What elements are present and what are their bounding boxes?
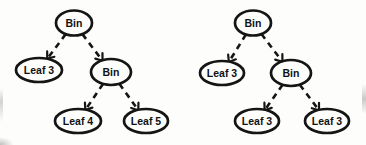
tree-node-right-left-grandchild: Leaf 3 xyxy=(235,109,279,133)
edge-bin-to-left-leaf3 xyxy=(265,85,283,110)
node-label: Leaf 3 xyxy=(24,64,55,76)
node-label: Leaf 3 xyxy=(207,67,238,79)
edge-bin-to-leaf5 xyxy=(119,84,138,110)
tree-node-right-child: Bin xyxy=(271,60,311,86)
node-label: Leaf 4 xyxy=(63,115,94,127)
node-label: Bin xyxy=(66,17,83,29)
left-tree: Bin Leaf 3 Bin Leaf 4 Leaf 5 xyxy=(16,11,168,134)
node-label: Leaf 3 xyxy=(312,115,343,127)
right-tree: Bin Leaf 3 Bin Leaf 3 Leaf 3 xyxy=(200,11,349,134)
edge-root-to-right-child xyxy=(82,34,102,60)
tree-node-left-child: Leaf 3 xyxy=(16,58,62,82)
tree-node-left-child: Leaf 3 xyxy=(200,61,244,85)
node-label: Leaf 5 xyxy=(131,115,162,127)
edge-root-to-left-child xyxy=(229,35,246,62)
edge-root-to-right-child xyxy=(261,34,282,61)
tree-node-right-right-grandchild: Leaf 3 xyxy=(305,109,349,133)
tree-node-root: Bin xyxy=(56,11,92,36)
scanned-diagram-page: Bin Leaf 3 Bin Leaf 4 Leaf 5 xyxy=(0,0,366,145)
tree-node-right-child: Bin xyxy=(91,59,131,85)
edge-bin-to-leaf4 xyxy=(86,84,103,110)
node-label: Bin xyxy=(103,66,120,78)
tree-node-right-left-grandchild: Leaf 4 xyxy=(55,109,101,133)
node-label: Leaf 3 xyxy=(242,115,273,127)
tree-node-root: Bin xyxy=(235,11,271,36)
binary-tree-diagram: Bin Leaf 3 Bin Leaf 4 Leaf 5 xyxy=(0,0,366,145)
edge-bin-to-right-leaf3 xyxy=(300,85,319,110)
node-label: Bin xyxy=(283,67,300,79)
edge-root-to-left-child xyxy=(48,34,66,58)
tree-node-right-right-grandchild: Leaf 5 xyxy=(124,109,168,133)
node-label: Bin xyxy=(245,17,262,29)
